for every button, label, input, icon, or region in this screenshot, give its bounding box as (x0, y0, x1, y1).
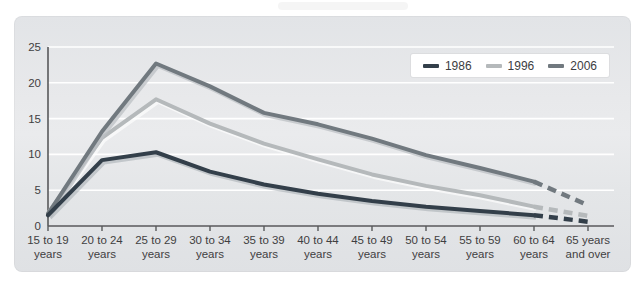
x-tick-label-top: 45 to 49 (351, 234, 393, 246)
x-tick-label-top: 35 to 39 (243, 234, 285, 246)
chart-legend: 198619962006 (411, 54, 609, 77)
x-tick-label-top: 50 to 54 (405, 234, 447, 246)
y-tick-label: 5 (35, 184, 41, 196)
x-tick-label-top: 15 to 19 (27, 234, 69, 246)
x-tick-label-top: 65 years (566, 234, 610, 246)
cropped-text-artifact (278, 2, 408, 10)
legend-swatch-1996 (486, 64, 502, 68)
y-tick-label: 15 (28, 113, 41, 125)
x-tick-label-bottom: years (196, 248, 224, 260)
y-tick-label: 20 (28, 77, 41, 89)
x-tick-label-bottom: years (304, 248, 332, 260)
x-tick-label-top: 20 to 24 (81, 234, 123, 246)
y-tick-label: 10 (28, 148, 41, 160)
x-tick-label-bottom: years (358, 248, 386, 260)
legend-item-1996: 1996 (486, 59, 535, 73)
y-tick-label: 0 (35, 220, 41, 232)
x-tick-label-bottom: years (142, 248, 170, 260)
legend-swatch-2006 (548, 64, 564, 68)
legend-label-1996: 1996 (508, 59, 535, 73)
x-tick-label-top: 55 to 59 (459, 234, 501, 246)
x-tick-label-bottom: years (520, 248, 548, 260)
y-tick-label: 25 (28, 41, 41, 53)
x-tick-label-bottom: years (412, 248, 440, 260)
x-tick-label-bottom: and over (566, 248, 611, 260)
legend-item-2006: 2006 (548, 59, 597, 73)
legend-swatch-1986 (423, 64, 439, 68)
x-tick-label-bottom: years (34, 248, 62, 260)
x-tick-label-top: 60 to 64 (513, 234, 555, 246)
legend-item-1986: 1986 (423, 59, 472, 73)
line-chart-card: 051015202515 to 19years20 to 24years25 t… (14, 16, 631, 272)
x-tick-label-top: 40 to 44 (297, 234, 339, 246)
x-tick-label-bottom: years (88, 248, 116, 260)
x-tick-label-bottom: years (466, 248, 494, 260)
x-tick-label-top: 30 to 34 (189, 234, 231, 246)
series-dashed-segment-2006 (534, 182, 588, 206)
x-tick-label-top: 25 to 29 (135, 234, 177, 246)
legend-label-2006: 2006 (570, 59, 597, 73)
legend-label-1986: 1986 (445, 59, 472, 73)
x-tick-label-bottom: years (250, 248, 278, 260)
